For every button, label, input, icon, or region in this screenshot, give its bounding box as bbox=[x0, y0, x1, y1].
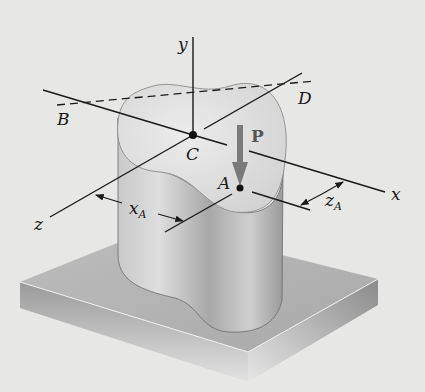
x-axis-label: x bbox=[391, 184, 401, 204]
point-a-dot bbox=[237, 185, 244, 192]
dim-za-label: zA bbox=[324, 190, 342, 213]
point-b-label: B bbox=[56, 109, 70, 129]
y-axis-label: y bbox=[177, 34, 188, 54]
dim-za-sub: A bbox=[333, 200, 342, 213]
point-a-label: A bbox=[216, 173, 230, 193]
point-c-dot bbox=[189, 131, 197, 139]
dim-xa-main: x bbox=[129, 198, 139, 218]
column-diagram: y x z B D C A P xA zA bbox=[0, 0, 425, 392]
point-d-label: D bbox=[297, 88, 312, 108]
load-p-label: P bbox=[251, 126, 264, 146]
point-c-label: C bbox=[186, 144, 199, 164]
dim-za-arrow bbox=[301, 194, 322, 205]
diagram-canvas: y x z B D C A P xA zA bbox=[0, 0, 425, 392]
z-axis-label: z bbox=[33, 214, 44, 234]
dim-xa-sub: A bbox=[138, 208, 147, 221]
